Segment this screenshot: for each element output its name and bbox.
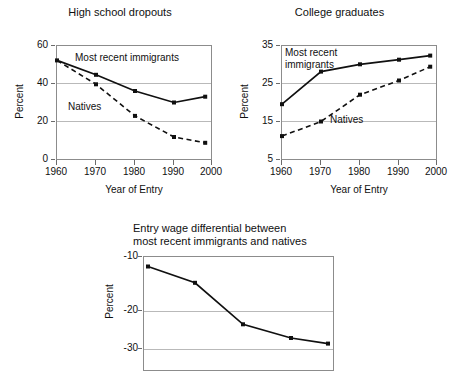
ytick-mark-dropouts-20: [51, 121, 55, 122]
xtick-label-graduates-1990: 1990: [379, 166, 417, 177]
xtick-mark-graduates-1970: [320, 160, 321, 165]
xtick-label-graduates-1960: 1960: [262, 166, 300, 177]
xtick-mark-dropouts-1960: [56, 160, 57, 165]
xtick-label-dropouts-1970: 1970: [76, 166, 114, 177]
ytick-label-graduates-15: 15: [247, 115, 273, 126]
xtick-mark-graduates-2000: [436, 160, 437, 165]
xtick-mark-dropouts-1990: [173, 160, 174, 165]
xtick-label-dropouts-1980: 1980: [115, 166, 153, 177]
series-layer-wage: [144, 257, 335, 372]
xtick-label-graduates-1970: 1970: [301, 166, 339, 177]
ytick-mark-graduates-35: [276, 45, 280, 46]
xtick-label-graduates-2000: 2000: [417, 166, 454, 177]
ytick-label-graduates-25: 25: [247, 77, 273, 88]
ytick-mark-graduates-15: [276, 121, 280, 122]
xtick-mark-dropouts-1970: [95, 160, 96, 165]
ytick-label-dropouts-20: 20: [22, 115, 48, 126]
xtick-mark-dropouts-2000: [211, 160, 212, 165]
series-markers-wage: [146, 265, 330, 346]
ytick-label-graduates-5: 5: [247, 153, 273, 164]
ytick-mark-dropouts-0: [51, 159, 55, 160]
ytick-label-graduates-35: 35: [247, 39, 273, 50]
chart-title-graduates: College graduates: [247, 6, 432, 19]
xtick-mark-graduates-1960: [281, 160, 282, 165]
ytick-mark-graduates-25: [276, 83, 280, 84]
ytick-mark-wage-minus10: [138, 256, 142, 257]
ytick-label-dropouts-60: 60: [22, 39, 48, 50]
series-line-immigrants-dropouts: [57, 60, 205, 102]
series-label-natives-graduates: Natives: [330, 114, 363, 126]
panel-high-school-dropouts: High school dropouts 60 40 20 0 Percent: [0, 0, 227, 205]
series-label-immigrants-graduates: Most recent immigrants: [285, 47, 351, 70]
xtick-mark-dropouts-1980: [134, 160, 135, 165]
xaxis-label-graduates: Year of Entry: [281, 184, 437, 195]
panel-college-graduates: College graduates 35 25 15 5 Percent: [227, 0, 454, 205]
panel-entry-wage-differential: Entry wage differential between most rec…: [0, 216, 454, 365]
ytick-label-wage-minus10: -10: [108, 250, 138, 261]
ytick-label-dropouts-0: 0: [22, 153, 48, 164]
chart-title-wage-line2: most recent immigrants and natives: [133, 235, 363, 248]
xtick-label-graduates-1980: 1980: [340, 166, 378, 177]
xaxis-label-dropouts: Year of Entry: [56, 184, 212, 195]
plot-area-wage: [143, 256, 334, 371]
yaxis-label-wage: Percent: [104, 275, 115, 329]
ytick-mark-dropouts-40: [51, 83, 55, 84]
chart-title-dropouts: High school dropouts: [25, 6, 215, 19]
ytick-mark-dropouts-60: [51, 45, 55, 46]
series-label-immigrants-dropouts: Most recent immigrants: [75, 52, 179, 64]
xtick-label-dropouts-1960: 1960: [37, 166, 75, 177]
chart-title-wage-line1: Entry wage differential between: [133, 222, 363, 235]
ytick-mark-graduates-5: [276, 159, 280, 160]
xtick-mark-graduates-1990: [398, 160, 399, 165]
yaxis-label-graduates: Percent: [239, 75, 250, 129]
series-line-wage: [148, 267, 328, 344]
yaxis-label-dropouts: Percent: [14, 75, 25, 129]
ytick-label-dropouts-40: 40: [22, 77, 48, 88]
ytick-label-wage-minus30: -30: [108, 342, 138, 353]
xtick-mark-graduates-1980: [359, 160, 360, 165]
xtick-label-dropouts-2000: 2000: [192, 166, 230, 177]
ytick-mark-wage-minus20: [138, 310, 142, 311]
series-label-natives-dropouts: Natives: [68, 101, 101, 113]
ytick-mark-wage-minus30: [138, 348, 142, 349]
series-line-natives-graduates: [282, 67, 430, 136]
xtick-label-dropouts-1990: 1990: [154, 166, 192, 177]
